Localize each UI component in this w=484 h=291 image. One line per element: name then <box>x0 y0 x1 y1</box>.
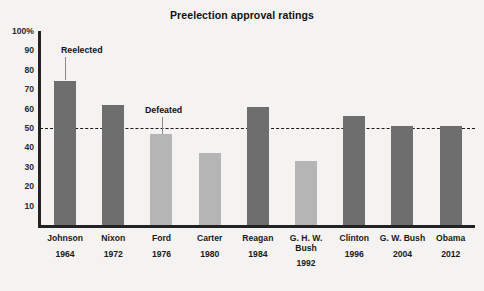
bar-slot-ghw-bush <box>282 31 330 225</box>
x-label-nixon: Nixon 1972 <box>89 234 137 259</box>
y-tick-80: 80 <box>0 66 34 75</box>
x-label-reagan-name: Reagan <box>234 234 282 244</box>
y-tick-60: 60 <box>0 105 34 114</box>
x-label-ghw-bush-year: 1992 <box>282 258 330 268</box>
x-label-gw-bush: G. W. Bush 2004 <box>378 234 426 259</box>
annotation-defeated: Defeated <box>145 105 182 115</box>
bar-gw-bush[interactable] <box>391 126 413 225</box>
y-tick-40: 40 <box>0 143 34 152</box>
bar-obama[interactable] <box>440 126 462 225</box>
bar-slot-obama <box>427 31 475 225</box>
y-tick-100: 100% <box>0 27 34 36</box>
bar-nixon[interactable] <box>102 105 124 225</box>
y-tick-20: 20 <box>0 182 34 191</box>
x-label-reagan: Reagan 1984 <box>234 234 282 259</box>
annotation-reelected: Reelected <box>61 45 103 55</box>
x-label-carter-year: 1980 <box>186 249 234 259</box>
bar-slot-carter <box>186 31 234 225</box>
x-label-carter-name: Carter <box>186 234 234 244</box>
x-label-nixon-year: 1972 <box>89 249 137 259</box>
x-axis-line <box>38 225 475 228</box>
x-label-ghw-bush: G. H. W. Bush 1992 <box>282 234 330 268</box>
chart-figure: Preelection approval ratings 100% 90 80 … <box>0 0 484 291</box>
x-label-clinton-name: Clinton <box>330 234 378 244</box>
annotation-reelected-leader <box>65 57 66 80</box>
x-label-johnson-name: Johnson <box>41 234 89 244</box>
bar-ford[interactable] <box>150 134 172 225</box>
x-label-johnson-year: 1964 <box>41 249 89 259</box>
x-label-johnson: Johnson 1964 <box>41 234 89 259</box>
x-label-obama: Obama 2012 <box>427 234 475 259</box>
bar-clinton[interactable] <box>343 116 365 225</box>
x-label-carter: Carter 1980 <box>186 234 234 259</box>
x-label-obama-year: 2012 <box>427 249 475 259</box>
x-label-gw-bush-year: 2004 <box>378 249 426 259</box>
y-tick-70: 70 <box>0 85 34 94</box>
bar-johnson[interactable] <box>54 81 76 225</box>
x-label-clinton-year: 1996 <box>330 249 378 259</box>
y-axis-tick-labels: 100% 90 80 70 60 50 40 30 20 10 <box>0 31 34 228</box>
x-label-clinton: Clinton 1996 <box>330 234 378 259</box>
x-axis-labels: Johnson 1964 Nixon 1972 Ford 1976 Carter… <box>41 234 475 290</box>
bar-reagan[interactable] <box>247 107 269 225</box>
bar-slot-nixon <box>89 31 137 225</box>
x-label-reagan-year: 1984 <box>234 249 282 259</box>
y-tick-90: 90 <box>0 46 34 55</box>
bar-ghw-bush[interactable] <box>295 161 317 225</box>
x-label-ford-name: Ford <box>137 234 185 244</box>
y-tick-10: 10 <box>0 202 34 211</box>
bar-carter[interactable] <box>199 153 221 225</box>
x-label-ford: Ford 1976 <box>137 234 185 259</box>
x-label-obama-name: Obama <box>427 234 475 244</box>
chart-title: Preelection approval ratings <box>0 9 484 21</box>
plot-area: Reelected Defeated <box>38 31 475 228</box>
annotation-defeated-leader <box>162 117 163 134</box>
y-tick-30: 30 <box>0 163 34 172</box>
x-label-ford-year: 1976 <box>137 249 185 259</box>
x-label-gw-bush-name: G. W. Bush <box>378 234 426 244</box>
bar-series <box>41 31 475 225</box>
x-label-nixon-name: Nixon <box>89 234 137 244</box>
x-label-ghw-bush-name: G. H. W. Bush <box>282 234 330 253</box>
y-tick-50: 50 <box>0 124 34 133</box>
bar-slot-clinton <box>330 31 378 225</box>
bar-slot-gw-bush <box>378 31 426 225</box>
figure-caption <box>20 286 470 291</box>
bar-slot-reagan <box>234 31 282 225</box>
